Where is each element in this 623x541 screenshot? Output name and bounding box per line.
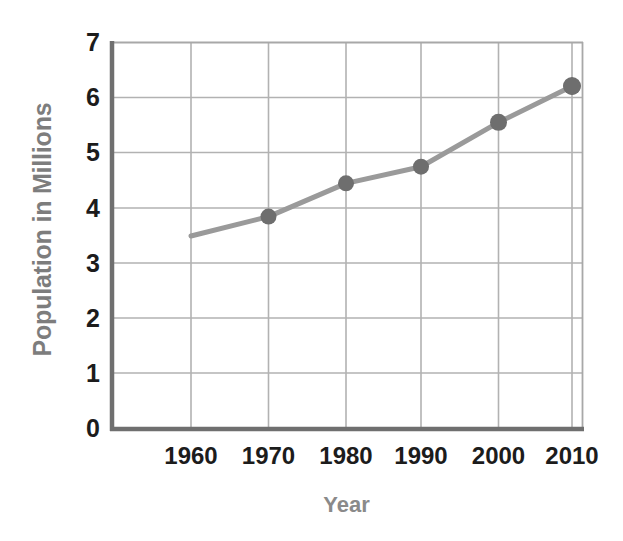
x-tick-label: 1960 [146,444,236,468]
x-axis-title: Year [110,492,583,518]
x-tick-label: 1990 [376,444,466,468]
population-line-chart: Population in Millions 7 6 5 4 3 2 1 0 [0,0,623,541]
x-tick-label: 1970 [224,444,314,468]
x-axis-tick-labels: 1960 1970 1980 1990 2000 2010 [0,0,623,541]
x-tick-label: 2010 [527,444,617,468]
